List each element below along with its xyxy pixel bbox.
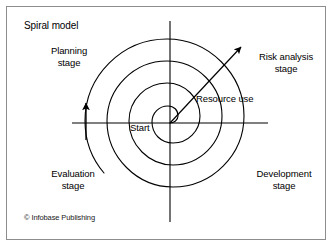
stage-label-planning: Planning stage: [38, 45, 100, 68]
resource-use-arrow-group: [170, 47, 241, 123]
stage-label-development: Development stage: [242, 168, 326, 191]
publisher-credit: © Infobase Publishing: [24, 212, 95, 224]
resource-use-arrow: [170, 47, 241, 123]
spiral-model-figure: Spiral model Planning stage Risk analysi…: [0, 0, 334, 249]
spiral-curve: [85, 39, 244, 187]
stage-label-evaluation: Evaluation stage: [38, 168, 108, 191]
axis-label-resource-use: Resource use: [196, 93, 253, 105]
stage-label-risk-analysis: Risk analysis stage: [244, 51, 328, 74]
figure-title: Spiral model: [24, 20, 78, 32]
spiral-path-group: [85, 39, 244, 187]
start-point-label: Start: [130, 122, 150, 134]
axes-group: [72, 21, 268, 222]
